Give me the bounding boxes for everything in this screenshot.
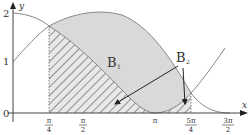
svg-text:2: 2 [186, 58, 190, 65]
svg-text:3π: 3π [223, 117, 232, 125]
y-axis-label: y [18, 1, 25, 11]
svg-text:π: π [47, 117, 52, 125]
x-axis-label: x [242, 100, 247, 110]
diagram-canvas: y x 0 1 2 π 4 π 2 π 5π 4 3π 2 B 1 B 2 [0, 0, 250, 135]
x-tick-3pi-2: 3π 2 [222, 117, 234, 134]
svg-text:B: B [107, 55, 117, 70]
svg-text:2: 2 [226, 126, 230, 134]
label-b2: B 2 [176, 50, 190, 65]
svg-text:π: π [81, 117, 86, 125]
x-tick-pi-2: π 2 [79, 117, 87, 134]
svg-text:4: 4 [47, 126, 52, 134]
y-tick-0: 0 [3, 108, 9, 119]
svg-text:4: 4 [189, 126, 194, 134]
y-tick-1: 1 [3, 56, 9, 67]
y-axis-arrow-icon [10, 2, 16, 9]
x-tick-pi: π [153, 117, 158, 125]
svg-text:B: B [176, 50, 186, 65]
svg-text:2: 2 [81, 126, 85, 134]
svg-text:1: 1 [117, 63, 121, 70]
svg-text:5π: 5π [186, 117, 195, 125]
x-axis-arrow-icon [240, 110, 248, 116]
x-tick-5pi-4: 5π 4 [185, 117, 197, 134]
y-tick-2: 2 [3, 8, 9, 19]
x-tick-pi-4: π 4 [45, 117, 53, 134]
svg-text:π: π [153, 117, 158, 125]
